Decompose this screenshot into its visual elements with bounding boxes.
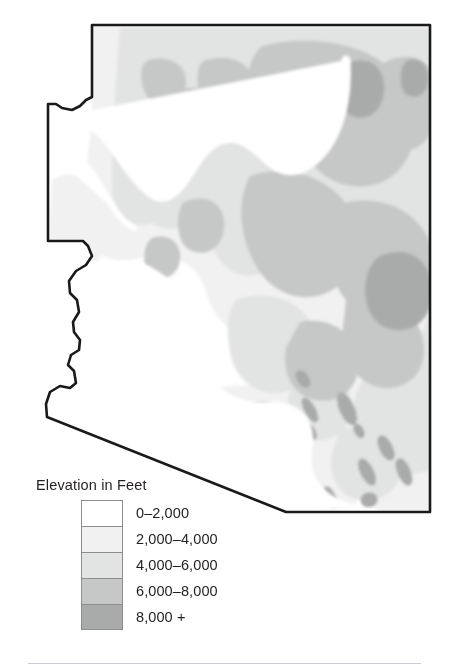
elevation-bands xyxy=(40,20,440,520)
legend-label-0-2000: 0–2,000 xyxy=(136,500,189,526)
legend-swatch-2000-4000 xyxy=(81,526,123,552)
legend-label-4000-6000: 4,000–6,000 xyxy=(136,552,218,578)
legend-swatch-4000-6000 xyxy=(81,552,123,578)
legend-swatch-6000-8000 xyxy=(81,578,123,604)
legend-rows: 0–2,000 2,000–4,000 4,000–6,000 6,000–8,… xyxy=(81,500,296,630)
legend-label-8000-plus: 8,000 + xyxy=(136,604,185,630)
legend-label-6000-8000: 6,000–8,000 xyxy=(136,578,218,604)
legend-row-0-2000: 0–2,000 xyxy=(81,500,296,526)
legend-title: Elevation in Feet xyxy=(36,476,296,494)
legend-label-2000-4000: 2,000–4,000 xyxy=(136,526,218,552)
legend-row-4000-6000: 4,000–6,000 xyxy=(81,552,296,578)
legend-swatch-8000-plus xyxy=(81,604,123,630)
legend-swatch-0-2000 xyxy=(81,500,123,526)
arizona-elevation-map-figure: Elevation in Feet 0–2,000 2,000–4,000 4,… xyxy=(0,0,449,671)
footer-divider xyxy=(28,663,421,664)
legend-row-2000-4000: 2,000–4,000 xyxy=(81,526,296,552)
legend-row-6000-8000: 6,000–8,000 xyxy=(81,578,296,604)
map-legend: Elevation in Feet 0–2,000 2,000–4,000 4,… xyxy=(36,476,296,630)
legend-row-8000-plus: 8,000 + xyxy=(81,604,296,630)
